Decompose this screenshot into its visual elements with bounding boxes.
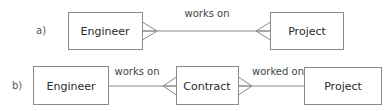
row-label-b: b) [12,80,22,91]
entity-name-project-a: Project [288,25,326,38]
entity-name-engineer-a: Engineer [81,25,130,38]
crows-foot-icon [163,77,177,95]
entity-name-contract-b: Contract [183,80,230,93]
crows-foot-icon [256,22,271,40]
relationship-label-worked-on-b: worked on [252,66,304,77]
relationship-label-works-on-b: works on [114,66,159,77]
row-label-a: a) [36,25,46,36]
relationship-label-works-on-a: works on [184,8,229,19]
entity-name-project-b: Project [324,80,362,93]
crows-foot-icon [143,22,158,40]
entity-name-engineer-b: Engineer [47,80,96,93]
crows-foot-icon [239,77,253,95]
